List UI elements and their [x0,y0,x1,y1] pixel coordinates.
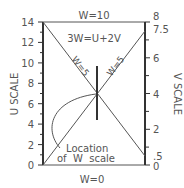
u-axis-title: U SCALE [9,73,20,116]
diag-label-right: W=5 [105,54,126,78]
diag-label-left: W=5 [70,54,91,78]
location-leader-curve [52,94,96,148]
v-tick-label: 0 [153,161,159,172]
top-label: W=10 [79,10,110,21]
u-tick-label: 14 [21,17,34,28]
v-axis-title: V SCALE [172,73,183,115]
u-tick-label: 8 [28,78,34,89]
v-tick-label: 4 [153,89,159,100]
v-tick-label: 7.5 [153,24,169,35]
v-tick-label: 6 [153,53,159,64]
u-tick-label: 6 [28,99,34,110]
u-tick-label: 0 [28,160,34,171]
v-tick-label: 2 [153,124,159,135]
nomogram-diagram: 14 12 10 8 6 4 2 0 U SCALE 8 7.5 6 4 2 .… [0,0,184,188]
u-tick-label: 10 [21,58,34,69]
u-tick-label: 4 [28,119,34,130]
v-tick-label: 8 [153,11,159,22]
location-label-line2: of W scale [57,153,115,164]
u-tick-label: 12 [21,37,34,48]
u-tick-label: 2 [28,140,34,151]
equation-label: 3W=U+2V [67,33,121,44]
bottom-label: W=0 [80,174,105,185]
